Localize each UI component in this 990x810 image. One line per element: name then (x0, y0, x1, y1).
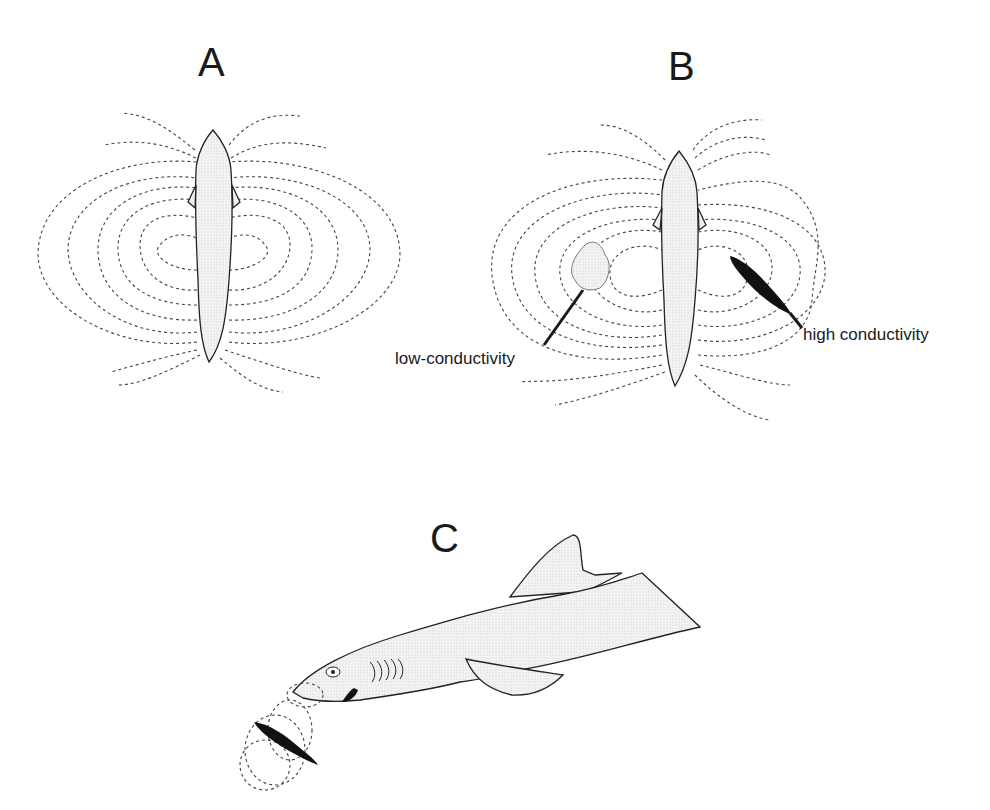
low-conductivity-object (572, 242, 610, 290)
fish-a-dorsal (188, 130, 240, 362)
high-conductivity-object (730, 256, 802, 328)
low-conductivity-arrow (544, 290, 583, 345)
figure-canvas (0, 0, 990, 810)
prey-fish (254, 722, 318, 765)
shark-lateral (293, 535, 700, 702)
fish-b-dorsal (653, 151, 706, 386)
panel-b-field-lines (492, 120, 826, 420)
